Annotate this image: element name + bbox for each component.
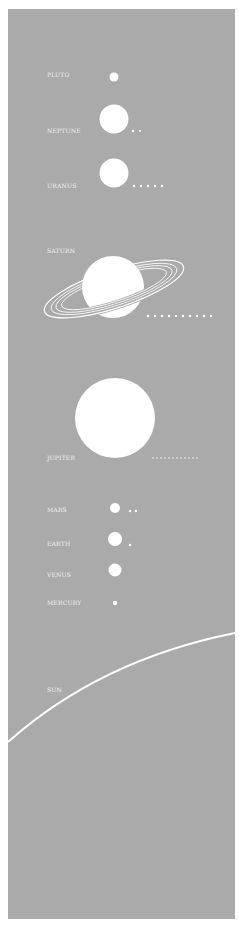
label-neptune: NEPTUNE <box>47 127 81 135</box>
label-jupiter: JUPITER <box>47 454 75 462</box>
uranus-body <box>100 159 129 188</box>
venus-body <box>109 564 122 577</box>
neptune-body <box>100 105 129 134</box>
label-earth: EARTH <box>47 540 70 548</box>
jupiter-body <box>75 378 155 458</box>
mercury-body <box>113 601 118 606</box>
mars-moons <box>129 510 137 512</box>
sun-limb-arc <box>8 633 235 742</box>
uranus-moons <box>133 185 163 187</box>
label-mercury: MERCURY <box>47 599 81 607</box>
label-mars: MARS <box>47 506 67 514</box>
solar-system-diagram <box>0 0 239 925</box>
label-venus: VENUS <box>47 571 71 579</box>
jupiter-moons <box>152 457 198 459</box>
neptune-moons <box>132 130 141 132</box>
pluto-body <box>110 73 119 82</box>
saturn-moons <box>147 315 212 317</box>
earth-moon <box>129 544 131 546</box>
label-uranus: URANUS <box>47 182 77 190</box>
mars-body <box>110 503 120 513</box>
label-saturn: SATURN <box>47 247 75 255</box>
saturn <box>39 248 190 329</box>
earth-body <box>108 532 122 546</box>
label-sun: SUN <box>47 686 62 694</box>
label-pluto: PLUTO <box>47 71 70 79</box>
